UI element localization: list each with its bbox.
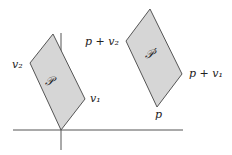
shape-label-p: 𝒫 <box>45 75 54 87</box>
diagram-canvas: 𝒫 v₂ v₁ 𝒫′ p + v₂ p + v₁ p <box>0 0 232 155</box>
vertex-label-p: p <box>155 109 162 120</box>
vertex-label-p-plus-v2: p + v₂ <box>85 36 119 47</box>
parallelogram-p <box>30 34 85 130</box>
shape-label-p-prime: 𝒫′ <box>145 48 157 60</box>
vertex-label-p-plus-v1: p + v₁ <box>189 68 223 79</box>
vertex-label-v1: v₁ <box>90 93 101 104</box>
vertex-label-v2: v₂ <box>12 59 23 70</box>
